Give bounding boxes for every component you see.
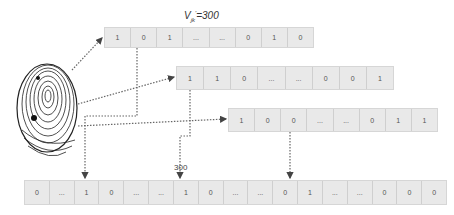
bit-cell: 0 — [360, 109, 386, 131]
bit-cell: ... — [323, 181, 348, 204]
bit-cell: 1 — [174, 181, 199, 204]
bit-vector-combined: 0...10......10......01......000 — [24, 180, 447, 205]
bit-cell: ... — [286, 67, 313, 89]
bit-cell: ... — [307, 109, 333, 131]
bit-cell: ... — [248, 181, 273, 204]
arrow-to-third-row — [78, 119, 226, 126]
bit-cell: 0 — [255, 109, 281, 131]
bit-cell: 0 — [340, 67, 367, 89]
bit-cell: 0 — [131, 28, 157, 47]
bit-cell: 1 — [75, 181, 100, 204]
bit-cell: ... — [149, 181, 174, 204]
bit-cell: 0 — [313, 67, 340, 89]
bit-cell: 0 — [397, 181, 422, 204]
bit-cell: 0 — [288, 28, 313, 47]
bit-cell: 1 — [412, 109, 437, 131]
bit-cell: 0 — [281, 109, 307, 131]
bit-vector-second: 110......001 — [176, 66, 394, 90]
bit-cell: 0 — [25, 181, 50, 204]
bit-cell: 1 — [204, 67, 231, 89]
value-label-300: 300 — [174, 163, 187, 172]
bit-vector-third: 100......011 — [228, 108, 438, 132]
bit-cell: 1 — [298, 181, 323, 204]
bit-cell: 1 — [386, 109, 412, 131]
bit-cell: ... — [224, 181, 249, 204]
bit-cell: 1 — [229, 109, 255, 131]
bit-cell: 1 — [177, 67, 204, 89]
bit-cell: 0 — [99, 181, 124, 204]
bit-cell: 1 — [105, 28, 131, 47]
bit-cell: 0 — [422, 181, 446, 204]
bit-cell: 1 — [157, 28, 183, 47]
bit-cell: ... — [124, 181, 149, 204]
bit-cell: 1 — [262, 28, 288, 47]
bit-cell: 0 — [273, 181, 298, 204]
diagram-title: Vjk'=300 — [184, 10, 219, 23]
bit-cell: ... — [348, 181, 373, 204]
arrow-to-second-row — [78, 77, 174, 104]
bit-vector-top: 101......010 — [104, 27, 314, 48]
arrow-to-top-row — [72, 38, 102, 70]
bit-cell: ... — [183, 28, 209, 47]
bit-cell: ... — [210, 28, 236, 47]
bit-cell: 0 — [236, 28, 262, 47]
bit-cell: 0 — [373, 181, 398, 204]
bit-cell: 1 — [367, 67, 393, 89]
bit-cell: 0 — [231, 67, 258, 89]
connector-top-to-bottom — [85, 48, 137, 178]
bit-cell: 0 — [199, 181, 224, 204]
bit-cell: ... — [50, 181, 75, 204]
bit-cell: ... — [334, 109, 360, 131]
bit-cell: ... — [258, 67, 285, 89]
